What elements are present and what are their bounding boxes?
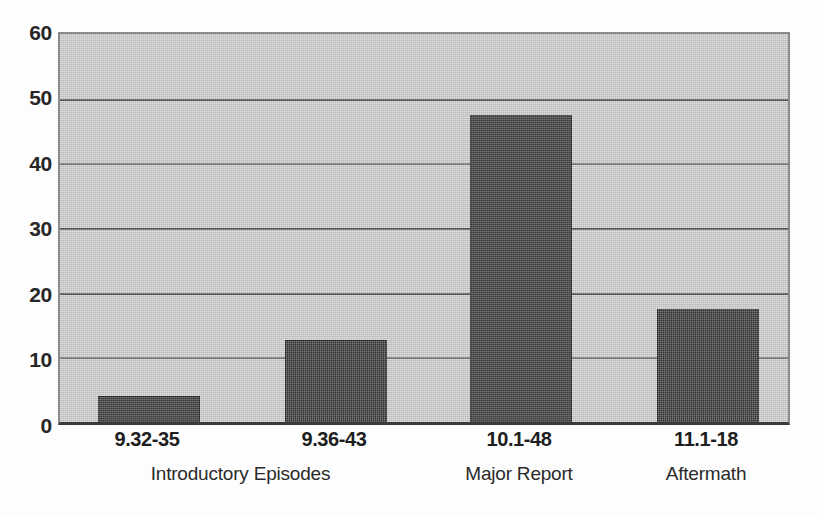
y-tick-label-60: 60 xyxy=(2,22,52,43)
x-ref-text: 9.36-43 xyxy=(301,428,366,450)
y-tick-label-0: 0 xyxy=(2,415,52,436)
bar-chart-figure: 60 50 40 30 20 10 0 9.32-35 9.36-43 10.1… xyxy=(0,0,817,515)
x-tick-label-9-36-43: 9.36-43 xyxy=(264,428,404,451)
y-axis-tick-labels: 60 50 40 30 20 10 0 xyxy=(0,0,52,515)
x-group-label-major-report: Major Report xyxy=(449,463,589,485)
x-ref-text: 11.1-18 xyxy=(674,428,738,450)
x-ref-text: 10.1-48 xyxy=(486,428,551,450)
x-tick-label-10-1-48: 10.1-48 xyxy=(449,428,589,451)
gridline-40 xyxy=(60,163,788,165)
bar-9-36-43 xyxy=(285,340,387,422)
x-tick-label-9-32-35: 9.32-35 xyxy=(77,428,217,451)
x-tick-label-11-1-18: 11.1-18 xyxy=(636,428,776,451)
x-group-label-introductory-episodes: Introductory Episodes xyxy=(77,463,404,485)
bar-11-1-18 xyxy=(657,309,759,422)
x-group-label-aftermath: Aftermath xyxy=(636,463,776,485)
y-tick-label-30: 30 xyxy=(2,218,52,239)
plot-area xyxy=(58,32,790,425)
gridline-20 xyxy=(60,293,788,295)
bar-9-32-35 xyxy=(98,396,200,422)
gridline-30 xyxy=(60,228,788,230)
y-tick-label-20: 20 xyxy=(2,284,52,305)
bar-10-1-48 xyxy=(470,115,572,422)
y-tick-label-50: 50 xyxy=(2,87,52,108)
x-axis-tick-labels: 9.32-35 9.36-43 10.1-48 11.1-18 Introduc… xyxy=(58,428,790,514)
gridline-50 xyxy=(60,99,788,101)
y-tick-label-40: 40 xyxy=(2,153,52,174)
y-tick-label-10: 10 xyxy=(2,349,52,370)
x-ref-text: 9.32-35 xyxy=(114,428,179,450)
